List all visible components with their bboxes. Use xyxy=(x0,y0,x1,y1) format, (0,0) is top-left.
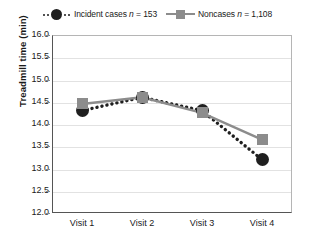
y-axis-tick-label: 15.5 xyxy=(9,52,49,61)
dotted-circle-marker-icon xyxy=(42,9,71,20)
y-axis-tick-mark xyxy=(46,146,50,147)
y-axis-tick-mark xyxy=(46,191,50,192)
y-axis-tick-label: 16.0 xyxy=(9,30,49,39)
legend-stat-value-noncases: = 1,108 xyxy=(244,9,272,19)
x-axis-tick-label-2: Visit 2 xyxy=(112,219,172,228)
legend-stat-symbol-incident: n xyxy=(129,9,134,19)
legend-stat-symbol-noncases: n xyxy=(237,9,242,19)
data-point-incident-4 xyxy=(256,153,269,166)
x-axis-tick-label-3: Visit 3 xyxy=(172,219,232,228)
y-axis-tick-mark xyxy=(46,213,50,214)
legend-item-incident-cases: Incident cases n = 153 xyxy=(42,9,157,20)
y-axis-tick-mark xyxy=(46,80,50,81)
y-axis-tick-label: 13.0 xyxy=(9,164,49,173)
y-axis-tick-label: 12.5 xyxy=(9,186,49,195)
y-axis-tick-label: 14.0 xyxy=(9,119,49,128)
data-point-noncase-4 xyxy=(257,134,268,145)
data-point-noncase-2 xyxy=(137,92,148,103)
y-axis-tick-label: 14.5 xyxy=(9,97,49,106)
x-axis-tick-label-1: Visit 1 xyxy=(52,219,112,228)
y-axis-tick-mark xyxy=(46,124,50,125)
y-axis-tick-label: 15.0 xyxy=(9,75,49,84)
y-axis-tick-label: 13.5 xyxy=(9,141,49,150)
y-axis-tick-label: 12.0 xyxy=(9,208,49,217)
chart-legend: Incident cases n = 153 Noncases n = 1,10… xyxy=(0,4,314,24)
treadmill-time-line-chart: Incident cases n = 153 Noncases n = 1,10… xyxy=(0,0,314,240)
series-lines xyxy=(52,35,292,213)
x-axis-tick-label-4: Visit 4 xyxy=(232,219,292,228)
y-axis-tick-mark xyxy=(46,35,50,36)
y-axis-tick-mark xyxy=(46,169,50,170)
data-point-noncase-3 xyxy=(197,107,208,118)
legend-stat-value-incident: = 153 xyxy=(136,9,157,19)
legend-label-noncases: Noncases n = 1,108 xyxy=(198,10,272,19)
y-axis-tick-mark xyxy=(46,57,50,58)
solid-square-marker-icon xyxy=(166,9,195,20)
legend-label-incident-cases: Incident cases n = 153 xyxy=(74,10,157,19)
data-point-noncase-1 xyxy=(77,98,88,109)
legend-item-noncases: Noncases n = 1,108 xyxy=(166,9,272,20)
y-axis-tick-mark xyxy=(46,102,50,103)
